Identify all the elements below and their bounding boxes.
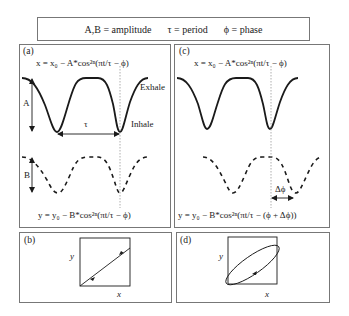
panel-c-y-curve xyxy=(203,157,323,193)
panel-c-x-curve xyxy=(177,78,298,129)
panel-b-plot-frame xyxy=(80,238,130,286)
panel-b-trajectory xyxy=(80,248,130,286)
panel-d-direction-arrow xyxy=(252,271,257,275)
diagram-graphics xyxy=(0,0,349,316)
panel-d-trajectory xyxy=(221,239,284,290)
panel-a-y-curve xyxy=(22,157,148,193)
panel-a-x-curve xyxy=(22,78,148,132)
panel-d-plot-frame xyxy=(228,237,277,284)
